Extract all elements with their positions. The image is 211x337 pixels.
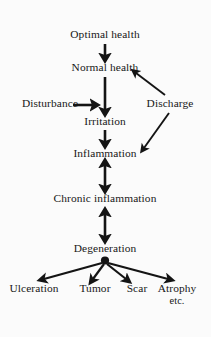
node-disturbance: Disturbance: [22, 98, 78, 110]
arrow-discharge-to-inflammation: [144, 113, 169, 148]
node-ulceration: Ulceration: [9, 283, 58, 295]
fan-out-junction-dot: [101, 256, 109, 264]
node-tumor: Tumor: [79, 283, 110, 295]
node-normal-health: Normal health: [72, 62, 139, 74]
node-scar: Scar: [127, 283, 148, 295]
node-discharge: Discharge: [147, 98, 194, 110]
node-etc: etc.: [169, 296, 184, 307]
arrow-degeneration-to-scar: [107, 264, 126, 279]
node-irritation: Irritation: [84, 116, 126, 128]
arrow-degeneration-to-ulceration: [44, 263, 102, 279]
node-chronic-inflammation: Chronic inflammation: [54, 193, 157, 205]
arrow-degeneration-to-tumor: [93, 264, 104, 279]
node-degeneration: Degeneration: [74, 243, 137, 255]
node-inflammation: Inflammation: [73, 148, 136, 160]
diagram-canvas: Optimal health Normal health Disturbance…: [0, 0, 211, 337]
node-atrophy: Atrophy: [158, 283, 197, 295]
arrow-degeneration-to-atrophy: [108, 263, 168, 279]
node-optimal-health: Optimal health: [70, 29, 139, 41]
arrow-discharge-to-normal: [136, 73, 165, 95]
